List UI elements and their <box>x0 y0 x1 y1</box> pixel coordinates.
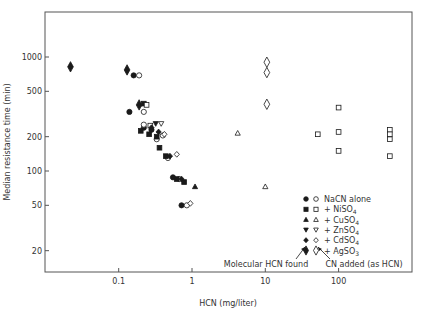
square-marker <box>336 149 341 154</box>
circle-marker <box>314 197 319 202</box>
circle-marker <box>304 197 309 202</box>
annotation-molecular-hcn: Molecular HCN found <box>224 260 308 269</box>
legend-label: + ZnSO4 <box>324 226 359 236</box>
tall-diamond-marker <box>264 67 270 77</box>
triangle-down-marker <box>159 122 164 127</box>
triangle-down-marker <box>314 228 319 232</box>
data-points <box>68 57 393 208</box>
diamond-marker <box>314 238 319 243</box>
square-marker <box>315 132 320 137</box>
circle-marker <box>141 109 146 114</box>
y-tick-label: 200 <box>27 133 42 142</box>
square-marker <box>304 207 308 211</box>
triangle-up-marker <box>304 217 309 221</box>
triangle-up-marker <box>192 184 197 189</box>
circle-marker <box>141 122 146 127</box>
circle-marker <box>131 73 136 78</box>
square-marker <box>387 127 392 132</box>
y-tick-label: 20 <box>32 247 42 256</box>
square-marker <box>387 132 392 137</box>
tall-diamond-marker <box>68 62 74 72</box>
square-marker <box>387 137 392 142</box>
annotation-cn-added: CN added (as HCN) <box>325 260 402 269</box>
x-tick-label: 1 <box>189 277 194 286</box>
triangle-down-marker <box>304 228 309 232</box>
x-tick-label: 10 <box>260 277 270 286</box>
x-tick-label: 100 <box>331 277 346 286</box>
square-marker <box>144 103 149 108</box>
scatter-chart: 0.1110100 10005002001005020 HCN (mg/lite… <box>0 0 422 320</box>
triangle-up-marker <box>263 184 268 189</box>
y-tick-label: 1000 <box>22 53 42 62</box>
tall-diamond-marker <box>303 246 308 255</box>
square-marker <box>314 207 318 211</box>
circle-marker <box>137 73 142 78</box>
diamond-marker <box>304 238 309 243</box>
legend-label: + CdSO4 <box>324 236 359 246</box>
tall-diamond-marker <box>264 99 270 109</box>
tall-diamond-marker <box>124 65 130 75</box>
tall-diamond-marker <box>264 57 270 67</box>
x-axis-ticks: 0.1110100 <box>112 268 346 286</box>
y-tick-label: 100 <box>27 167 42 176</box>
x-tick-label: 0.1 <box>112 277 125 286</box>
triangle-up-marker <box>235 131 240 136</box>
y-axis-label: Median resistance time (min) <box>3 83 12 200</box>
legend-label: + NiSO4 <box>324 205 357 215</box>
y-tick-label: 50 <box>32 201 42 210</box>
legend-label: + CuSO4 <box>324 216 359 226</box>
legend-label: + AgSO3 <box>324 247 359 257</box>
legend: NaCN alone+ NiSO4+ CuSO4+ ZnSO4+ CdSO4+ … <box>303 195 371 257</box>
square-marker <box>138 129 143 134</box>
y-tick-label: 500 <box>27 87 42 96</box>
square-marker <box>336 105 341 110</box>
square-marker <box>157 145 162 150</box>
triangle-down-marker <box>153 122 158 127</box>
square-marker <box>387 154 392 159</box>
legend-label: NaCN alone <box>324 195 371 204</box>
circle-marker <box>127 109 132 114</box>
diamond-marker <box>174 151 179 157</box>
square-marker <box>336 130 341 135</box>
x-axis-label: HCN (mg/liter) <box>199 299 257 308</box>
circle-marker <box>179 203 184 208</box>
square-marker <box>147 132 152 137</box>
triangle-up-marker <box>314 217 319 221</box>
